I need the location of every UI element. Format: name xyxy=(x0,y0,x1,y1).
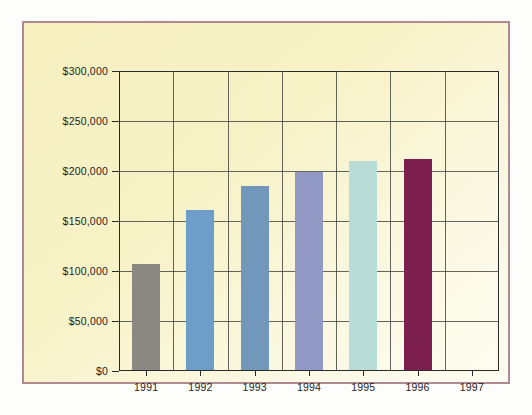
x-tick-mark xyxy=(309,370,310,376)
bar-1994 xyxy=(295,172,323,370)
y-tick-label: $50,000 xyxy=(69,315,119,327)
x-tick-mark xyxy=(146,370,147,376)
chart-screenshot: $0$50,000$100,000$150,000$200,000$250,00… xyxy=(0,0,532,415)
plot-top-border xyxy=(119,71,499,72)
y-tick-label: $250,000 xyxy=(63,115,119,127)
x-tick-mark xyxy=(255,370,256,376)
gridline-vertical xyxy=(173,71,174,371)
y-tick-label: $100,000 xyxy=(63,265,119,277)
x-tick-mark xyxy=(418,370,419,376)
x-tick-label-1997: 1997 xyxy=(460,381,484,393)
x-tick-label-1993: 1993 xyxy=(243,381,267,393)
y-tick-label: $200,000 xyxy=(63,165,119,177)
bar-1995 xyxy=(349,161,377,370)
x-tick-label-1996: 1996 xyxy=(405,381,429,393)
chart-plate: $0$50,000$100,000$150,000$200,000$250,00… xyxy=(22,21,510,384)
y-tick-label: $0 xyxy=(96,365,119,377)
bar-1993 xyxy=(241,186,269,370)
x-tick-label-1992: 1992 xyxy=(188,381,212,393)
y-tick-label: $150,000 xyxy=(63,215,119,227)
x-tick-mark xyxy=(472,370,473,376)
gridline-horizontal xyxy=(119,121,499,122)
x-tick-mark xyxy=(200,370,201,376)
bar-1996 xyxy=(404,159,432,370)
x-tick-label-1995: 1995 xyxy=(351,381,375,393)
x-tick-mark xyxy=(363,370,364,376)
gridline-vertical xyxy=(390,71,391,371)
x-tick-label-1991: 1991 xyxy=(134,381,158,393)
bar-1991 xyxy=(132,264,160,370)
plot-area: $0$50,000$100,000$150,000$200,000$250,00… xyxy=(119,71,499,371)
gridline-vertical xyxy=(282,71,283,371)
y-tick-label: $300,000 xyxy=(63,65,119,77)
bar-1992 xyxy=(186,210,214,370)
gridline-vertical xyxy=(445,71,446,371)
gridline-vertical xyxy=(336,71,337,371)
gridline-vertical xyxy=(228,71,229,371)
x-tick-label-1994: 1994 xyxy=(297,381,321,393)
